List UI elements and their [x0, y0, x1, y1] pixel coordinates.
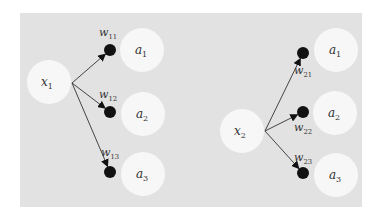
input-node-x1: x1 — [27, 60, 71, 104]
weight-dot-w23 — [297, 167, 309, 179]
input-node-x2: x2 — [220, 109, 264, 153]
weight-dot-w11 — [104, 44, 116, 56]
output-node-a2: a2 — [121, 92, 165, 136]
neural-weights-diagram: x1a1w11a2w12a3w13x2a1w21a2w22a3w23 — [0, 0, 383, 218]
output-node-a3: a3 — [314, 153, 358, 197]
weight-dot-w22 — [297, 106, 309, 118]
output-node-a1: a1 — [120, 28, 164, 72]
output-node-a3: a3 — [121, 152, 165, 196]
output-node-a2: a2 — [313, 91, 357, 135]
weight-dot-w13 — [104, 166, 116, 178]
weight-dot-w21 — [297, 47, 309, 59]
output-node-a1: a1 — [314, 28, 358, 72]
weight-dot-w12 — [104, 106, 116, 118]
diagram-panel-background — [20, 13, 362, 207]
